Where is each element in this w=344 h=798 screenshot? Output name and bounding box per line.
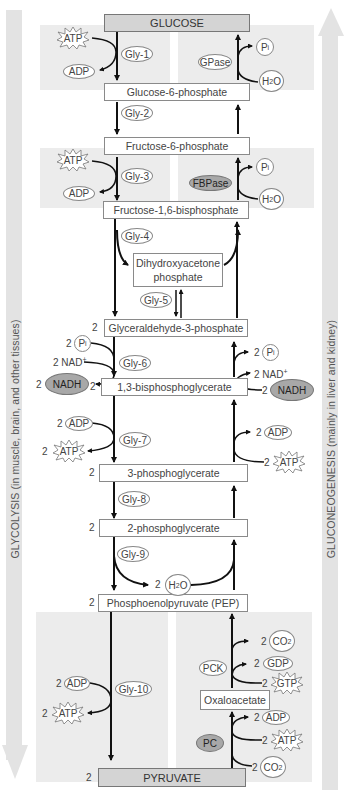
- co2-circle: CO2: [260, 756, 286, 778]
- pi-circle: Pi: [74, 335, 91, 352]
- 2-phosphoglycerate-box: 2-phosphoglycerate: [99, 519, 248, 537]
- stoich-label: 2: [42, 708, 48, 719]
- atp-burst: ATP: [51, 701, 85, 725]
- adp-oval: ADP: [63, 186, 95, 201]
- gly-8-enzyme: Gly-8: [118, 491, 150, 507]
- gap-stoich: 2: [92, 322, 98, 333]
- fbpase-enzyme: FBPase: [189, 175, 232, 191]
- pi-circle: Pi: [262, 344, 279, 361]
- stoich-label: 2: [36, 379, 42, 390]
- h2o-circle: H2O: [259, 188, 284, 210]
- gly-4-enzyme: Gly-4: [121, 228, 153, 244]
- gly-7-enzyme: Gly-7: [119, 432, 151, 448]
- stoich-label: 2: [66, 338, 72, 349]
- pg3-stoich: 2: [89, 467, 95, 478]
- fructose-6-phosphate-box: Fructose-6-phosphate: [104, 137, 250, 155]
- pg2-stoich: 2: [89, 522, 95, 533]
- stoich-label: 2: [254, 712, 260, 723]
- fructose-16-bisphosphate-box: Fructose-1,6-bisphosphate: [103, 201, 249, 219]
- adp-oval: ADP: [65, 416, 93, 431]
- gpase-enzyme: GPase: [198, 54, 232, 70]
- gly-10-enzyme: Gly-10: [115, 681, 152, 697]
- phosphoenolpyruvate-box: Phosphoenolpyruvate (PEP): [98, 594, 248, 612]
- stoich-label: 2: [57, 418, 63, 429]
- nad-label: 2 NAD+: [53, 356, 87, 368]
- gly-5-enzyme: Gly-5: [140, 292, 172, 308]
- gly-9-enzyme: Gly-9: [117, 546, 149, 562]
- stoich-label: 2: [262, 385, 268, 396]
- dhap-line2: phosphate: [153, 270, 202, 284]
- stoich-label: 2: [254, 658, 260, 669]
- gly-3-enzyme: Gly-3: [121, 168, 153, 184]
- co2-circle: CO2: [269, 630, 295, 652]
- stoich-label: 2: [155, 579, 161, 590]
- dhap-line1: Dihydroxyacetone: [136, 256, 220, 270]
- stoich-label: 2: [261, 636, 267, 647]
- atp-burst: ATP: [56, 148, 90, 172]
- atp-burst: ATP: [52, 439, 86, 463]
- stoich-label: 2: [262, 678, 268, 689]
- h2o-circle: H2O: [165, 574, 191, 596]
- pc-enzyme: PC: [196, 734, 224, 752]
- adp-oval: ADP: [264, 425, 292, 440]
- glucose-6-phosphate-box: Glucose-6-phosphate: [104, 83, 250, 101]
- gtp-burst: GTP: [270, 671, 304, 695]
- gly-2-enzyme: Gly-2: [121, 105, 153, 121]
- gly-1-enzyme: Gly-1: [121, 46, 153, 62]
- adp-oval: ADP: [262, 710, 290, 725]
- pi-circle: Pi: [256, 158, 274, 176]
- stoich-label: 2: [56, 678, 62, 689]
- bpg13-stoich: 2: [90, 381, 96, 392]
- atp-burst: ATP: [56, 26, 90, 50]
- glucose-box: GLUCOSE: [104, 14, 250, 32]
- pi-circle: Pi: [256, 38, 274, 56]
- h2o-circle: H2O: [259, 70, 284, 92]
- pyruvate-box: PYRUVATE: [98, 768, 246, 787]
- stoich-label: 2: [42, 446, 48, 457]
- dhap-box: Dihydroxyacetone phosphate: [133, 253, 223, 287]
- nad-label: 2 NAD+: [254, 368, 288, 380]
- adp-oval: ADP: [64, 676, 90, 691]
- gdp-oval: GDP: [263, 656, 293, 671]
- 3-phosphoglycerate-box: 3-phosphoglycerate: [99, 464, 248, 482]
- pep-stoich: 2: [89, 597, 95, 608]
- nadh-oval: NADH: [270, 379, 314, 401]
- stoich-label: 2: [262, 735, 268, 746]
- atp-burst: ATP: [272, 450, 306, 474]
- pck-enzyme: PCK: [199, 660, 227, 676]
- stoich-label: 2: [264, 457, 270, 468]
- 13-bisphosphoglycerate-box: 1,3-bisphosphoglycerate: [101, 378, 248, 396]
- stoich-label: 2: [254, 347, 260, 358]
- glyceraldehyde-3-phosphate-box: Glyceraldehyde-3-phosphate: [104, 319, 248, 337]
- adp-oval: ADP: [63, 64, 95, 79]
- atp-burst: ATP: [270, 728, 304, 752]
- oxaloacetate-box: Oxaloacetate: [200, 690, 270, 710]
- stoich-label: 2: [256, 427, 262, 438]
- pyruvate-stoich: 2: [86, 772, 92, 783]
- nadh-oval: NADH: [45, 373, 89, 395]
- stoich-label: 2: [252, 762, 258, 773]
- gly-6-enzyme: Gly-6: [119, 355, 151, 371]
